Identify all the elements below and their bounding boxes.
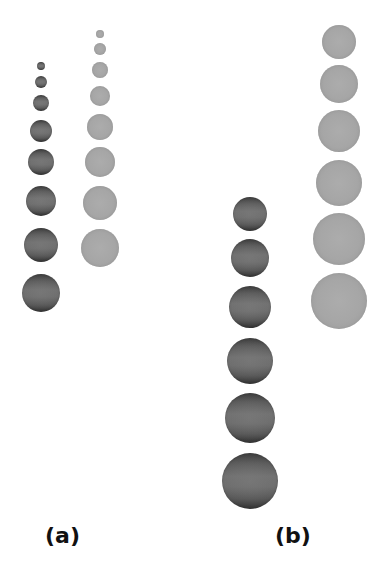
light-sphere — [90, 86, 110, 106]
dark-sphere — [28, 149, 54, 175]
dark-sphere — [37, 62, 45, 70]
light-sphere — [85, 147, 115, 177]
dark-sphere — [26, 186, 56, 216]
panel-a-label: (a) — [45, 525, 80, 547]
dark-sphere — [30, 120, 52, 142]
light-sphere — [320, 65, 358, 103]
light-sphere — [316, 160, 362, 206]
dark-sphere — [22, 274, 60, 312]
light-sphere — [311, 273, 367, 329]
light-sphere — [81, 229, 119, 267]
light-sphere — [318, 110, 360, 152]
light-sphere — [87, 114, 113, 140]
light-sphere — [92, 62, 108, 78]
light-sphere — [322, 25, 356, 59]
light-sphere — [96, 30, 104, 38]
light-sphere — [83, 186, 117, 220]
panel-b-label: (b) — [275, 525, 311, 547]
dark-sphere — [231, 239, 269, 277]
light-sphere — [94, 43, 106, 55]
dark-sphere — [33, 95, 49, 111]
dark-sphere — [227, 338, 273, 384]
figure: (a) (b) — [0, 0, 380, 584]
dark-sphere — [225, 393, 275, 443]
dark-sphere — [233, 197, 267, 231]
dark-sphere — [222, 453, 278, 509]
light-sphere — [313, 213, 365, 265]
dark-sphere — [229, 286, 271, 328]
dark-sphere — [24, 228, 58, 262]
dark-sphere — [35, 76, 47, 88]
